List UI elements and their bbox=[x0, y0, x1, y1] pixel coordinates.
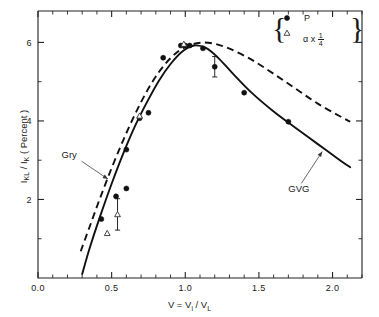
curve-gry bbox=[81, 43, 351, 252]
y-axis-title-sub-kl: KL bbox=[23, 172, 30, 181]
x-tick-label: 0.0 bbox=[31, 283, 45, 293]
data-point-p bbox=[187, 43, 192, 48]
x-axis-title-main: V = V bbox=[168, 299, 192, 310]
legend-brace-right: } bbox=[350, 11, 364, 44]
y-axis-title-mid: / I bbox=[18, 161, 29, 172]
annotation-arrow-gvg bbox=[318, 152, 323, 158]
legend-label-p: P bbox=[304, 13, 310, 23]
legend-alpha-fraction: 14 bbox=[318, 32, 324, 48]
data-point-p bbox=[200, 46, 205, 51]
y-axis-title-tail: ( Percent ) bbox=[18, 110, 29, 157]
annotation-label-gry: Gry bbox=[62, 149, 78, 160]
data-point-p bbox=[286, 119, 291, 124]
data-point-alpha bbox=[115, 211, 121, 216]
y-tick-label: 6 bbox=[27, 38, 32, 48]
data-point-p bbox=[242, 90, 247, 95]
data-points bbox=[99, 41, 291, 235]
x-tick-label: 2.0 bbox=[326, 283, 340, 293]
x-tick-label: 1.0 bbox=[178, 283, 192, 293]
x-tick-label: 1.5 bbox=[252, 283, 266, 293]
axis-tick-labels: 0.00.51.01.52.0642 bbox=[27, 38, 340, 293]
legend-brace-left: { bbox=[272, 11, 286, 44]
y-axis-title-main: I bbox=[18, 181, 29, 184]
y-axis-title-sub-k: K bbox=[23, 157, 30, 162]
legend-alpha-denominator: 4 bbox=[318, 40, 324, 47]
data-point-p bbox=[99, 217, 104, 222]
chart-figure: GryGVG 0.00.51.01.52.0642 {}P V = Vi / V… bbox=[0, 0, 379, 317]
annotation-leader-gvg bbox=[301, 152, 322, 184]
legend-alpha-prefix: α x bbox=[303, 34, 318, 44]
legend-alpha-numerator: 1 bbox=[318, 32, 324, 40]
data-point-p bbox=[146, 110, 151, 115]
data-point-p bbox=[124, 147, 129, 152]
data-point-p bbox=[212, 64, 217, 69]
curve-annotations: GryGVG bbox=[62, 149, 323, 194]
annotation-arrow-gry bbox=[102, 174, 107, 179]
axis-ticks bbox=[38, 11, 362, 278]
axis-top-right bbox=[38, 11, 362, 278]
y-axis-title: IKL / IK ( Percent ) bbox=[18, 76, 31, 216]
x-tick-label: 0.5 bbox=[105, 283, 119, 293]
data-point-p bbox=[124, 186, 129, 191]
data-point-p bbox=[114, 194, 119, 199]
legend-entry-alpha-label: α x 14 bbox=[303, 32, 324, 48]
curve-gvg bbox=[82, 45, 350, 274]
x-axis-title-sub-l: L bbox=[207, 305, 211, 312]
axis-left-bottom bbox=[38, 11, 362, 278]
data-point-alpha bbox=[104, 230, 110, 235]
annotation-label-gvg: GVG bbox=[288, 183, 309, 194]
data-point-p bbox=[161, 55, 166, 60]
legend-marker-p bbox=[285, 16, 290, 21]
x-axis-title: V = Vi / VL bbox=[0, 299, 379, 312]
axis-lines bbox=[38, 11, 362, 278]
x-axis-title-mid: / V bbox=[193, 299, 207, 310]
